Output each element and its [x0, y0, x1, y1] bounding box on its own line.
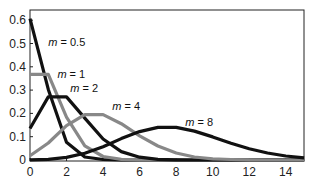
y-tick-label: 0.1 — [9, 130, 26, 144]
x-tick-label: 12 — [243, 165, 257, 179]
y-tick-label: 0.4 — [9, 60, 26, 74]
curve-label: m = 2 — [70, 82, 98, 94]
x-tick-label: 6 — [136, 165, 143, 179]
curve-label: m = 8 — [185, 116, 213, 128]
series-line-4 — [30, 127, 304, 159]
curve-label: m = 0.5 — [48, 36, 85, 48]
y-tick-label: 0.6 — [9, 13, 26, 27]
x-tick-label: 4 — [100, 165, 107, 179]
x-tick-label: 0 — [27, 165, 34, 179]
y-axis: 00.10.20.30.40.50.6 — [9, 13, 33, 167]
x-tick-label: 10 — [206, 165, 220, 179]
y-tick-label: 0.2 — [9, 106, 26, 120]
x-tick-label: 2 — [63, 165, 70, 179]
y-tick-label: 0.3 — [9, 83, 26, 97]
x-tick-label: 8 — [173, 165, 180, 179]
poisson-distribution-chart: 00.10.20.30.40.50.6 02468101214 m = 0.5m… — [0, 0, 318, 186]
curve-label: m = 4 — [112, 100, 140, 112]
curve-label: m = 1 — [57, 68, 85, 80]
y-tick-label: 0.5 — [9, 37, 26, 51]
x-tick-label: 14 — [279, 165, 293, 179]
y-tick-label: 0 — [19, 153, 26, 167]
curve-labels: m = 0.5m = 1m = 2m = 4m = 8 — [48, 36, 213, 128]
